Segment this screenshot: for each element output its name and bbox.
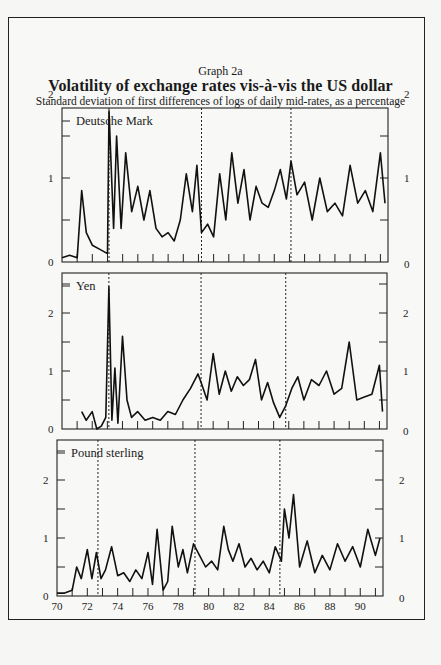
panel-pound-sterling: 001122Pound sterling70727476788082848688…	[43, 440, 405, 612]
y-tick-label-right: 1	[399, 532, 405, 544]
x-tick-label: 84	[264, 600, 276, 612]
x-tick-label: 88	[324, 600, 336, 612]
y-tick-label-left: 2	[48, 307, 54, 319]
y-tick-label-left: 2	[43, 474, 49, 486]
y-tick-label-left: 1	[43, 532, 49, 544]
panel-label: Pound sterling	[71, 446, 144, 460]
panel-frame	[62, 108, 388, 262]
y-tick-label-right: 1	[403, 365, 409, 377]
volatility-series	[62, 111, 385, 258]
panel-frame	[57, 440, 383, 596]
y-tick-label-left: 0	[48, 256, 54, 268]
y-tick-label-right: 2	[404, 88, 410, 100]
volatility-series	[57, 495, 380, 594]
volatility-series	[82, 287, 383, 429]
y-tick-label-left: 0	[48, 423, 54, 435]
panel-label: Yen	[76, 279, 96, 293]
y-tick-label-right: 1	[404, 172, 410, 184]
panel-label: Deutsche Mark	[76, 114, 153, 128]
y-tick-label-left: 1	[48, 365, 54, 377]
x-tick-label: 90	[355, 600, 367, 612]
y-tick-label-right: 2	[399, 474, 405, 486]
y-tick-label-left: 2	[48, 88, 54, 100]
x-tick-label: 74	[112, 600, 124, 612]
x-tick-label: 70	[52, 600, 64, 612]
y-tick-label-right: 0	[403, 425, 409, 437]
x-tick-label: 82	[233, 600, 244, 612]
x-tick-label: 80	[203, 600, 215, 612]
x-tick-label: 72	[82, 600, 93, 612]
panel-deutsche-mark: 001122Deutsche Mark	[48, 88, 410, 270]
panel-yen: 001122Yen	[48, 273, 409, 437]
x-tick-label: 78	[173, 600, 185, 612]
y-tick-label-right: 0	[404, 258, 410, 270]
y-tick-label-right: 0	[399, 592, 405, 604]
x-tick-label: 86	[294, 600, 306, 612]
y-tick-label-left: 1	[48, 172, 54, 184]
y-tick-label-left: 0	[43, 590, 49, 602]
x-tick-label: 76	[142, 600, 154, 612]
chart-panels: 001122Deutsche Mark001122Yen001122Pound …	[0, 0, 441, 665]
y-tick-label-right: 2	[403, 307, 409, 319]
